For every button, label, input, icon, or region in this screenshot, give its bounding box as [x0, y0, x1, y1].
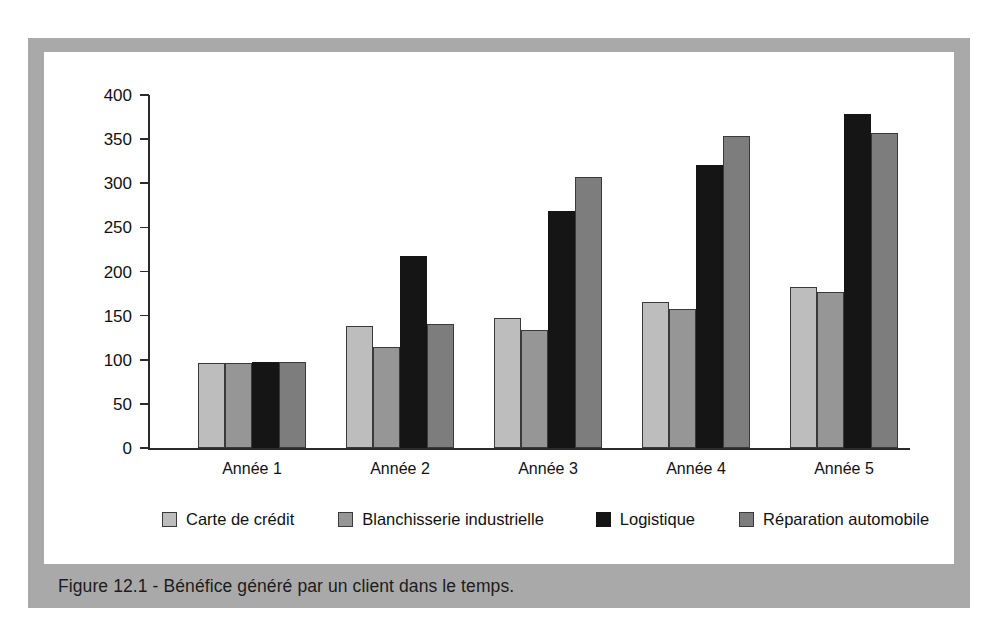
bar — [696, 165, 723, 448]
bar-group — [790, 95, 898, 448]
x-axis-line — [148, 448, 910, 450]
bar — [198, 363, 225, 448]
bar — [790, 287, 817, 448]
legend-label: Logistique — [620, 510, 695, 529]
bar — [669, 309, 696, 448]
bar — [225, 363, 252, 448]
bar — [575, 177, 602, 448]
bar — [252, 362, 279, 448]
y-axis-tick-label: 350 — [78, 130, 132, 150]
x-axis-tick-label: Année 2 — [326, 460, 474, 478]
x-axis-tick-label: Année 5 — [770, 460, 918, 478]
y-axis-tick-label: 300 — [78, 174, 132, 194]
bar — [817, 292, 844, 448]
legend-label: Carte de crédit — [186, 510, 294, 529]
bar-group — [346, 95, 454, 448]
y-axis-tick-label: 250 — [78, 218, 132, 238]
y-axis-tick-label: 400 — [78, 86, 132, 106]
legend-label: Réparation automobile — [763, 510, 929, 529]
bar — [844, 114, 871, 448]
bar — [279, 362, 306, 448]
legend-swatch-icon — [596, 512, 611, 527]
legend-swatch-icon — [162, 512, 177, 527]
y-axis-tick-label: 50 — [78, 395, 132, 415]
bar-group — [642, 95, 750, 448]
legend-swatch-icon — [739, 512, 754, 527]
bar — [494, 318, 521, 448]
y-axis-tick-label: 100 — [78, 351, 132, 371]
chart-legend: Carte de créditBlanchisserie industriell… — [162, 504, 952, 534]
legend-item: Blanchisserie industrielle — [338, 510, 544, 529]
x-axis-tick-label: Année 1 — [178, 460, 326, 478]
plot-area — [149, 95, 909, 448]
chart-plate: 050100150200250300350400 Année 1Année 2A… — [44, 52, 954, 564]
y-axis-tick-label: 200 — [78, 263, 132, 283]
legend-item: Réparation automobile — [739, 510, 929, 529]
bar-group — [494, 95, 602, 448]
y-axis-tick-label: 0 — [78, 439, 132, 459]
legend-item: Logistique — [596, 510, 695, 529]
legend-label: Blanchisserie industrielle — [362, 510, 544, 529]
legend-swatch-icon — [338, 512, 353, 527]
bar — [373, 347, 400, 448]
legend-item: Carte de crédit — [162, 510, 294, 529]
bar — [642, 302, 669, 448]
bar-chart: 050100150200250300350400 Année 1Année 2A… — [44, 52, 954, 564]
x-axis-tick-label: Année 4 — [622, 460, 770, 478]
figure-caption: Figure 12.1 - Bénéfice généré par un cli… — [28, 564, 970, 608]
bar — [548, 211, 575, 448]
x-axis-tick-label: Année 3 — [474, 460, 622, 478]
figure-frame: 050100150200250300350400 Année 1Année 2A… — [28, 38, 970, 608]
bar-group — [198, 95, 306, 448]
bar — [346, 326, 373, 448]
bar — [871, 133, 898, 448]
bar — [400, 256, 427, 448]
bar — [427, 324, 454, 448]
y-axis-tick-label: 150 — [78, 307, 132, 327]
bar — [521, 330, 548, 448]
bar — [723, 136, 750, 448]
y-axis-labels: 050100150200250300350400 — [44, 52, 132, 564]
